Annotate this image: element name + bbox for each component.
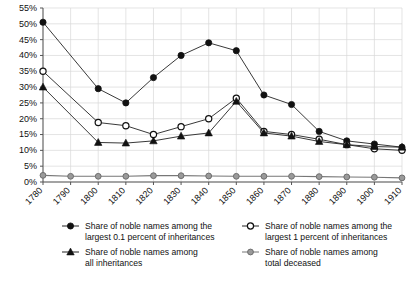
- data-point-marker: [151, 173, 157, 179]
- line-chart: 0%5%10%15%20%25%30%35%40%45%50%55% 17801…: [0, 0, 420, 287]
- y-tick-label: 25%: [19, 98, 37, 108]
- legend-item-2[interactable]: Share of noble names among thelargest 1 …: [242, 221, 392, 242]
- data-point-marker: [288, 101, 294, 107]
- legend-label-line1: Share of noble names among: [85, 247, 198, 257]
- y-tick-label: 40%: [19, 50, 37, 60]
- legend-label-line2: all inheritances: [85, 258, 142, 268]
- legend-label-line2: largest 1 percent of inheritances: [265, 232, 387, 242]
- data-point-marker: [178, 52, 184, 58]
- y-tick-label: 45%: [19, 35, 37, 45]
- data-point-marker: [178, 173, 184, 179]
- legend-marker-icon: [67, 223, 73, 229]
- data-point-marker: [233, 173, 239, 179]
- data-point-marker: [40, 19, 46, 25]
- legend-label-line2: largest 0.1 percent of inheritances: [85, 232, 214, 242]
- y-tick-label: 50%: [19, 19, 37, 29]
- data-point-marker: [316, 128, 322, 134]
- legend-label-line2: total deceased: [265, 258, 321, 268]
- y-tick-label: 20%: [19, 114, 37, 124]
- data-point-marker: [68, 173, 74, 179]
- y-tick-label: 15%: [19, 129, 37, 139]
- y-tick-label: 5%: [24, 161, 37, 171]
- data-point-marker: [178, 124, 184, 130]
- legend-label-line1: Share of noble names among the: [265, 221, 392, 231]
- data-point-marker: [40, 68, 46, 74]
- legend-marker-icon: [248, 249, 254, 255]
- data-point-marker: [95, 86, 101, 92]
- data-point-marker: [123, 100, 129, 106]
- data-point-marker: [233, 48, 239, 54]
- legend-label-line1: Share of noble names among: [265, 247, 378, 257]
- y-tick-label: 30%: [19, 82, 37, 92]
- data-point-marker: [261, 92, 267, 98]
- y-tick-label: 55%: [19, 3, 37, 13]
- data-point-marker: [316, 174, 322, 180]
- legend-label-line1: Share of noble names among the: [85, 221, 212, 231]
- y-tick-label: 10%: [19, 145, 37, 155]
- data-point-marker: [150, 75, 156, 81]
- data-point-marker: [123, 123, 129, 129]
- legend-item-1[interactable]: Share of noble names among thelargest 0.…: [62, 221, 214, 242]
- data-point-marker: [95, 173, 101, 179]
- data-point-marker: [261, 173, 267, 179]
- y-tick-label: 0%: [24, 177, 37, 187]
- data-point-marker: [206, 173, 212, 179]
- legend-marker-icon: [247, 223, 253, 229]
- chart-container: 0%5%10%15%20%25%30%35%40%45%50%55% 17801…: [0, 0, 420, 287]
- data-point-marker: [206, 40, 212, 46]
- data-point-marker: [40, 172, 46, 178]
- data-point-marker: [399, 175, 405, 181]
- data-point-marker: [206, 116, 212, 122]
- data-point-marker: [123, 173, 129, 179]
- data-point-marker: [289, 173, 295, 179]
- data-point-marker: [344, 174, 350, 180]
- y-tick-label: 35%: [19, 66, 37, 76]
- data-point-marker: [95, 119, 101, 125]
- data-point-marker: [371, 174, 377, 180]
